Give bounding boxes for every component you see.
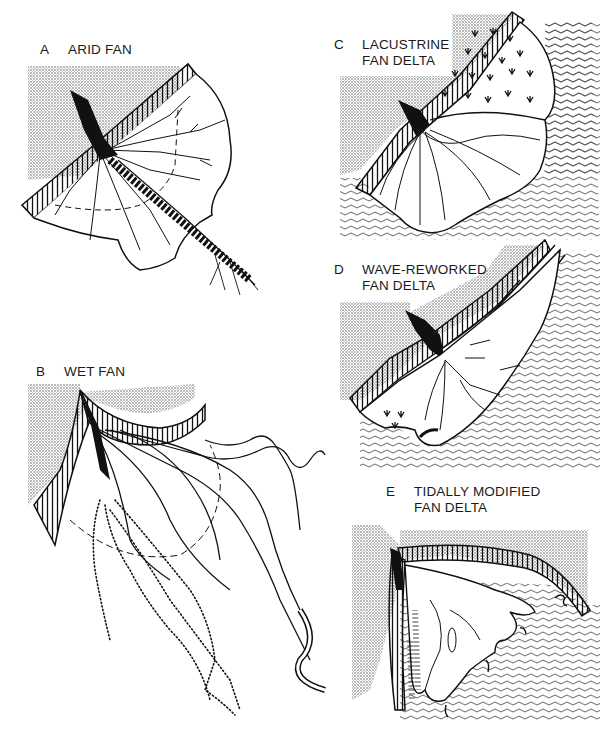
panel-label-c: CLACUSTRINE FAN DELTA (334, 37, 450, 69)
panel-title: LACUSTRINE (362, 37, 450, 52)
panel-letter: B (36, 364, 64, 380)
panel-title: WAVE-REWORKED (362, 262, 487, 277)
panel-label-d: DWAVE-REWORKED FAN DELTA (334, 262, 487, 294)
panel-label-e: ETIDALLY MODIFIED FAN DELTA (386, 484, 540, 516)
panel-b-drawing (28, 384, 325, 715)
panel-title: ARID FAN (68, 42, 132, 57)
panel-label-b: BWET FAN (36, 364, 125, 380)
panel-letter: A (40, 42, 68, 58)
panel-title-line2: FAN DELTA (334, 278, 487, 294)
panel-title: TIDALLY MODIFIED (414, 484, 540, 499)
panel-title-line2: FAN DELTA (334, 53, 450, 69)
panel-title: WET FAN (64, 364, 125, 379)
panel-letter: D (334, 262, 362, 278)
panel-e-drawing (352, 525, 600, 720)
panel-title-line2: FAN DELTA (386, 500, 540, 516)
panel-a-drawing (22, 64, 258, 295)
panel-label-a: AARID FAN (40, 42, 132, 58)
panel-letter: E (386, 484, 414, 500)
panel-letter: C (334, 37, 362, 53)
